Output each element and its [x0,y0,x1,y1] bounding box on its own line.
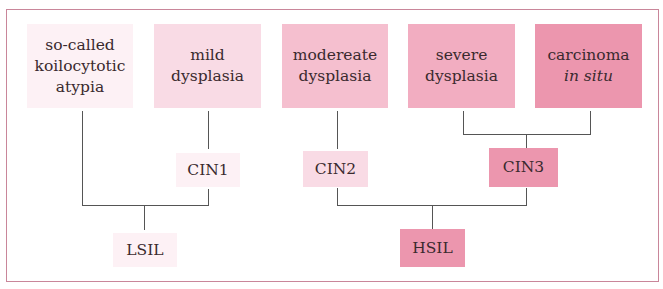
connector-line [526,188,527,206]
connector-line [526,134,527,148]
connector-line [208,111,209,149]
node-text-line: modereate [293,45,377,66]
connector-line [208,189,209,206]
node-lsil: LSIL [113,233,177,267]
connector-line [463,134,591,135]
node-severe-dysplasia: severe dysplasia [408,24,515,108]
node-text-line: so-called [35,35,126,56]
node-text-line: severe [425,45,498,66]
node-carcinoma-in-situ: carcinoma in situ [535,24,642,108]
node-cin3: CIN3 [489,148,558,187]
node-text-line: mild [171,45,244,66]
connector-line [432,205,433,229]
connector-line [463,111,464,135]
node-text-line: dysplasia [425,66,498,87]
node-text-line: koilocytotic [35,56,126,77]
node-cin1: CIN1 [176,153,240,187]
connector-line [337,111,338,149]
node-text-line-italic: in situ [547,66,629,87]
node-cin2: CIN2 [303,151,368,187]
node-koilocytotic-atypia: so-called koilocytotic atypia [27,24,133,108]
connector-line [144,205,145,230]
node-text-line: atypia [35,77,126,98]
node-text-line: dysplasia [171,66,244,87]
node-mild-dysplasia: mild dysplasia [154,24,261,108]
node-moderate-dysplasia: modereate dysplasia [282,24,388,108]
node-text-line: dysplasia [293,66,377,87]
connector-line [82,205,209,206]
connector-line [82,111,83,206]
connector-line [337,188,338,206]
connector-line [590,111,591,135]
node-text-line: carcinoma [547,45,629,66]
node-hsil: HSIL [400,229,465,267]
italic-text: in situ [564,67,613,85]
